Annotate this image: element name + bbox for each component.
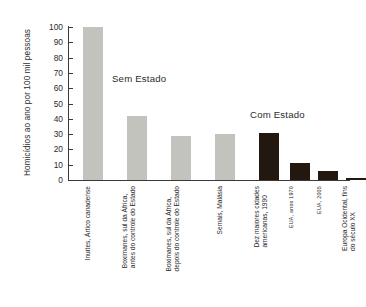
x-label-dez-maiores-cidades: Dez maiores cidades americanas, 1990 [253, 186, 268, 248]
x-label-europa-ocidental-line2: do século XX [349, 186, 357, 251]
y-tick-label-100: 100 [37, 23, 63, 31]
x-label-semais-line1: Semais, Malásia [216, 186, 223, 234]
x-label-boximanes-depois: Boximanes, sul da África, depois do cont… [165, 186, 180, 271]
y-tick-label-80: 80 [37, 54, 63, 62]
x-label-eua-2005-line1: EUA, 2005 [316, 186, 322, 214]
x-label-europa-ocidental: Europa Ocidental, fins do século XX [341, 186, 356, 251]
x-label-boximanes-antes-line2: antes do controle do Estado [129, 186, 137, 268]
y-axis-title: Homicídios ao ano por 100 mil pessoas [23, 13, 32, 193]
bar-dez-maiores-cidades [259, 133, 279, 180]
x-label-boximanes-antes-line1: Boximanes, sul da África, [121, 194, 128, 268]
plot-area: 0 10 20 30 40 50 60 70 80 90 100 [68, 26, 350, 181]
y-tick-50 [69, 104, 73, 105]
x-label-boximanes-depois-line1: Boximanes, sul da África, [165, 197, 172, 271]
y-tick-label-10: 10 [37, 161, 63, 169]
x-label-inuites-line1: Inuítes, Ártico canadense [84, 186, 91, 260]
y-tick-label-0: 0 [37, 176, 63, 184]
y-tick-100 [69, 27, 73, 28]
y-tick-label-40: 40 [37, 115, 63, 123]
bar-boximanes-depois [171, 136, 191, 180]
x-label-boximanes-antes: Boximanes, sul da África, antes do contr… [121, 186, 136, 268]
x-label-dez-maiores-cidades-line2: americanas, 1990 [261, 186, 269, 248]
y-tick-20 [69, 149, 73, 150]
bar-eua-1970 [290, 163, 310, 180]
bar-eua-2005 [318, 171, 338, 180]
y-tick-70 [69, 73, 73, 74]
y-tick-label-50: 50 [37, 100, 63, 108]
x-label-eua-2005: EUA, 2005 [316, 186, 324, 214]
x-label-semais: Semais, Malásia [216, 186, 224, 234]
y-tick-label-70: 70 [37, 69, 63, 77]
bar-inuites [83, 27, 103, 180]
y-tick-label-60: 60 [37, 84, 63, 92]
y-tick-label-30: 30 [37, 130, 63, 138]
x-label-eua-1970: EUA, anos 1970 [288, 186, 296, 228]
y-tick-40 [69, 119, 73, 120]
x-label-dez-maiores-cidades-line1: Dez maiores cidades [253, 186, 260, 248]
y-tick-label-20: 20 [37, 145, 63, 153]
bar-semais [215, 134, 235, 180]
y-tick-90 [69, 42, 73, 43]
y-tick-0 [69, 180, 73, 181]
x-label-europa-ocidental-line1: Europa Ocidental, fins [341, 186, 348, 251]
y-tick-30 [69, 134, 73, 135]
bar-boximanes-antes [127, 116, 147, 180]
y-tick-80 [69, 58, 73, 59]
x-label-boximanes-depois-line2: depois do controle do Estado [173, 186, 181, 271]
x-label-inuites: Inuítes, Ártico canadense [84, 186, 92, 260]
y-tick-label-90: 90 [37, 38, 63, 46]
y-tick-10 [69, 165, 73, 166]
bar-europa-ocidental [346, 178, 366, 180]
annotation-sem-estado: Sem Estado [112, 73, 166, 84]
annotation-com-estado: Com Estado [250, 109, 305, 120]
x-axis-line [68, 180, 350, 181]
x-label-eua-1970-line1: EUA, anos 1970 [288, 186, 294, 228]
y-tick-60 [69, 88, 73, 89]
